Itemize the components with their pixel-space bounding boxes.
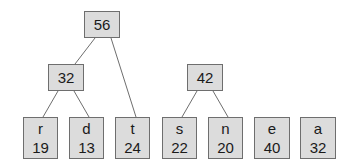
leaf-weight: 24 <box>124 140 141 155</box>
edge-n42-s <box>182 91 197 117</box>
leaf-node-a: a 32 <box>300 117 336 159</box>
leaf-symbol: a <box>314 121 322 136</box>
leaf-node-d: d 13 <box>69 117 104 159</box>
leaf-symbol: n <box>221 121 229 136</box>
leaf-symbol: s <box>176 121 184 136</box>
internal-node-42: 42 <box>187 64 223 91</box>
internal-node-32: 32 <box>48 64 84 91</box>
leaf-node-r: r 19 <box>23 117 58 159</box>
edge-n56-n32 <box>75 38 95 64</box>
leaf-node-t: t 24 <box>115 117 150 159</box>
leaf-weight: 40 <box>264 140 281 155</box>
node-weight: 32 <box>58 70 75 85</box>
node-weight: 56 <box>94 17 111 32</box>
leaf-symbol: e <box>268 121 276 136</box>
leaf-node-n: n 20 <box>208 117 243 159</box>
leaf-symbol: r <box>38 121 43 136</box>
leaf-node-e: e 40 <box>254 117 290 159</box>
node-weight: 42 <box>197 70 214 85</box>
edge-n32-d <box>74 91 89 117</box>
edge-n42-n <box>213 91 228 117</box>
leaf-weight: 19 <box>32 140 49 155</box>
leaf-node-s: s 22 <box>162 117 197 159</box>
leaf-weight: 22 <box>171 140 188 155</box>
leaf-weight: 32 <box>310 140 327 155</box>
leaf-symbol: d <box>82 121 90 136</box>
leaf-weight: 13 <box>78 140 95 155</box>
edge-n32-r <box>43 91 58 117</box>
internal-node-56: 56 <box>84 11 120 38</box>
edge-n56-t <box>111 38 136 117</box>
leaf-weight: 20 <box>217 140 234 155</box>
leaf-symbol: t <box>130 121 134 136</box>
